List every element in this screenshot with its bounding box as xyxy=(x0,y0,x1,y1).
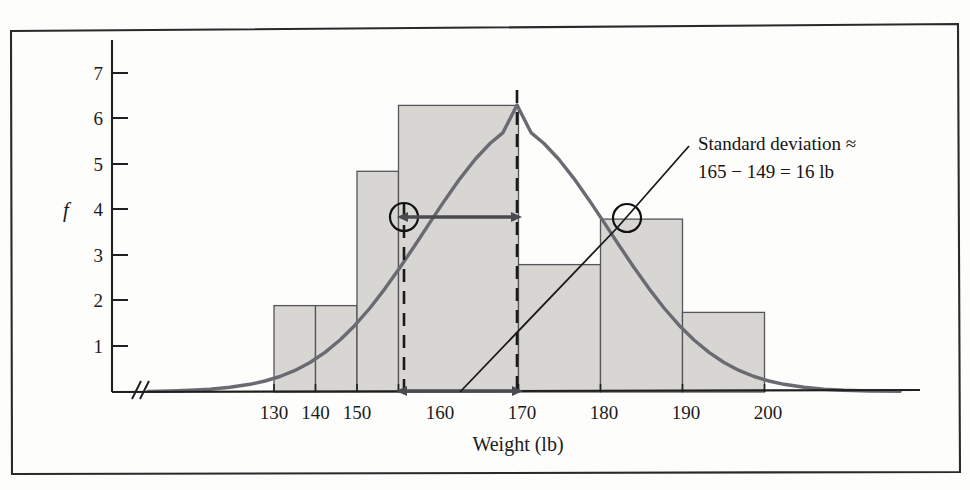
figure-container: 7 6 5 4 3 2 1 f 130 140 150 160 170 180 … xyxy=(0,0,970,490)
x-tick-200: 200 xyxy=(754,402,783,423)
y-tick-3: 3 xyxy=(94,245,104,266)
x-tick-170: 170 xyxy=(508,402,537,423)
y-tick-6: 6 xyxy=(94,108,104,129)
y-tick-1: 1 xyxy=(94,336,104,357)
y-tick-7: 7 xyxy=(94,63,104,84)
x-tick-150: 150 xyxy=(343,402,372,423)
sd-annotation-line2: 165 − 149 = 16 lb xyxy=(698,161,834,182)
y-tick-labels: 7 6 5 4 3 2 1 xyxy=(94,63,104,357)
axis-break-icon xyxy=(132,381,149,399)
x-tick-190: 190 xyxy=(672,402,701,423)
y-tick-4: 4 xyxy=(94,199,104,220)
y-tick-2: 2 xyxy=(94,290,104,311)
chart-svg: 7 6 5 4 3 2 1 f 130 140 150 160 170 180 … xyxy=(0,0,970,490)
y-axis-label: f xyxy=(63,198,72,222)
x-tick-140: 140 xyxy=(301,402,330,423)
x-tick-160: 160 xyxy=(426,402,455,423)
bar-140-150 xyxy=(316,306,358,392)
bar-130-140 xyxy=(274,306,316,392)
x-axis-label: Weight (lb) xyxy=(472,433,563,456)
bar-150-160 xyxy=(357,171,399,392)
sd-annotation: Standard deviation ≈ 165 − 149 = 16 lb xyxy=(698,133,856,182)
y-axis xyxy=(112,40,128,392)
x-tick-labels: 130 140 150 160 170 180 190 200 xyxy=(260,402,783,423)
x-tick-130: 130 xyxy=(260,402,289,423)
bar-180-190 xyxy=(601,219,683,392)
x-tick-180: 180 xyxy=(590,402,619,423)
bar-190-200 xyxy=(683,312,765,392)
sd-annotation-line1: Standard deviation ≈ xyxy=(698,133,856,154)
y-tick-5: 5 xyxy=(94,154,104,175)
bar-170-180 xyxy=(519,265,601,392)
histogram-bars xyxy=(274,105,765,392)
